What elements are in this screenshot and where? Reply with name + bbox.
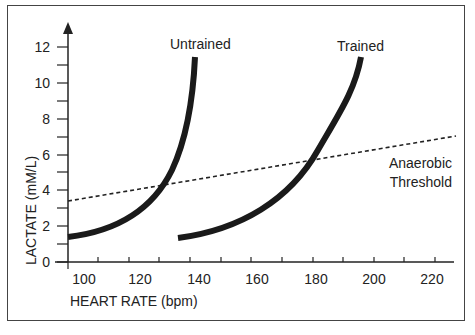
x-tick-label: 140 — [187, 271, 211, 287]
x-axis-title: HEART RATE (bpm) — [70, 293, 198, 309]
untrained-label: Untrained — [170, 36, 231, 52]
x-tick-label: 220 — [420, 271, 444, 287]
x-tick-label: 160 — [245, 271, 269, 287]
x-ticks — [68, 257, 435, 269]
y-tick-label: 6 — [42, 147, 50, 163]
x-tick-label: 120 — [128, 271, 152, 287]
y-tick-label: 4 — [42, 182, 50, 198]
threshold-label-line2: Threshold — [390, 174, 452, 190]
y-tick-label: 0 — [42, 254, 50, 270]
trained-label: Trained — [337, 38, 384, 54]
threshold-label-line1: Anaerobic — [389, 155, 452, 171]
y-tick-label: 8 — [42, 111, 50, 127]
y-tick-label: 10 — [34, 75, 50, 91]
y-ticks — [57, 47, 68, 262]
y-tick-label: 2 — [42, 218, 50, 234]
x-tick-label: 200 — [362, 271, 386, 287]
untrained-curve — [68, 57, 195, 237]
y-axis-title: LACTATE (mM/L) — [23, 156, 39, 265]
y-tick-label: 12 — [34, 39, 50, 55]
x-tick-label: 100 — [72, 271, 96, 287]
y-axis-arrow-icon — [63, 22, 73, 34]
lactate-chart: 0 2 4 6 8 10 12 100 120 140 160 180 200 … — [0, 0, 475, 335]
trained-curve — [178, 57, 361, 238]
x-tick-label: 180 — [304, 271, 328, 287]
